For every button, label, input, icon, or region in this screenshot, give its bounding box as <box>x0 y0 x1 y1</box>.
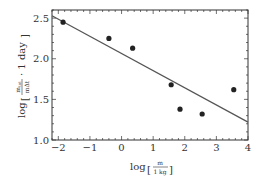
x-label-lbracket: [ <box>147 164 151 175</box>
data-point <box>231 87 236 92</box>
data-point <box>130 46 135 51</box>
y-label-tail: · 1 day <box>16 42 27 76</box>
y-axis-label: log [ mtot mΔt · 1 day ] <box>14 34 30 118</box>
scatter-chart: −2−1012341.01.52.02.5 log [ m 1 kg ] log… <box>0 0 263 189</box>
x-tick-label: −1 <box>83 142 98 153</box>
data-point <box>200 111 205 116</box>
y-tick-label: 2.5 <box>33 13 49 24</box>
y-label-log: log <box>16 102 27 118</box>
plot-frame <box>52 10 248 140</box>
axis-ticks: −2−1012341.01.52.02.5 <box>33 10 251 153</box>
x-tick-label: −2 <box>51 142 66 153</box>
x-tick-label: 1 <box>150 142 156 153</box>
y-tick-label: 2.0 <box>33 53 49 64</box>
x-label-denominator: 1 kg <box>153 168 166 176</box>
y-label-numerator: mtot <box>14 81 22 93</box>
fit-line <box>52 16 248 122</box>
data-point <box>106 36 111 41</box>
x-label-rbracket: ] <box>169 164 173 175</box>
x-label-numerator: m <box>157 159 163 166</box>
y-label-lbracket: [ <box>19 97 30 101</box>
x-tick-label: 2 <box>182 142 188 153</box>
data-point <box>60 20 65 25</box>
x-axis-label: log [ m 1 kg ] <box>130 159 173 176</box>
x-tick-label: 3 <box>213 142 219 153</box>
data-point <box>177 107 182 112</box>
y-label-rbracket: ] <box>19 34 30 38</box>
y-label-denominator: mΔt <box>23 80 30 93</box>
x-label-log: log <box>130 161 146 172</box>
y-tick-label: 1.5 <box>33 94 49 105</box>
x-tick-label: 0 <box>118 142 124 153</box>
x-tick-label: 4 <box>245 142 251 153</box>
y-tick-label: 1.0 <box>33 135 49 146</box>
data-point <box>169 82 174 87</box>
